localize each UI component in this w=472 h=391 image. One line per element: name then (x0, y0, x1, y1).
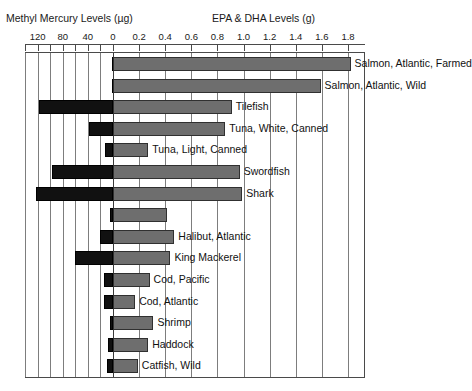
mercury-bar (104, 273, 113, 287)
bar-row-label: King Mackerel (174, 250, 241, 265)
epa-dha-bar (113, 79, 321, 93)
axis-tick (100, 44, 101, 51)
bar-row-label: Salmon, Atlantic, Wild (325, 78, 427, 93)
mercury-bar (36, 187, 113, 201)
mercury-bar (89, 122, 113, 136)
bar-row: Cod, Pacific (26, 269, 364, 291)
axis-tick (75, 44, 76, 51)
bar-row: Tuna, Light, Canned (26, 139, 364, 161)
epa-dha-tick-label: 0.2 (133, 31, 146, 42)
epa-dha-tick-label: 1.6 (315, 31, 328, 42)
axis-tick (38, 44, 39, 51)
epa-dha-bar (113, 100, 232, 114)
epa-dha-tick-label: 1.0 (237, 31, 250, 42)
axis-tick (139, 44, 140, 51)
epa-dha-bar (113, 359, 138, 373)
bar-row-label: Salmon, Atlantic, Farmed (355, 56, 472, 71)
bar-row-label: Catfish, Wild (142, 358, 201, 373)
bar-row: Tuna, White, Canned (26, 118, 364, 140)
epa-dha-tick-label: 0.8 (211, 31, 224, 42)
axis-tick (25, 44, 26, 51)
axis-tick (217, 44, 218, 51)
bar-row-label: Tuna, Light, Canned (152, 142, 247, 157)
bar-row-label: Tilefish (236, 99, 269, 114)
epa-dha-bar (113, 251, 170, 265)
bar-row: Swordfish (26, 161, 364, 183)
bar-row: Tilefish (26, 96, 364, 118)
epa-dha-bar (113, 273, 150, 287)
mercury-bar (105, 143, 113, 157)
epa-dha-bar (113, 57, 351, 71)
mercury-tick-label: 40 (83, 31, 94, 42)
axis-tick (165, 44, 166, 51)
mercury-bar (75, 251, 113, 265)
mercury-tick-label: 0 (110, 31, 115, 42)
epa-dha-bar (113, 208, 167, 222)
axis-tick (113, 44, 114, 51)
mercury-bar (39, 100, 113, 114)
epa-dha-bar (113, 338, 148, 352)
mercury-tick-label: 80 (57, 31, 68, 42)
bar-row (26, 204, 364, 226)
bar-row-label: Swordfish (244, 164, 290, 179)
axis-tick (50, 44, 51, 51)
epa-dha-tick-label: 1.4 (289, 31, 302, 42)
epa-dha-axis-title: EPA & DHA Levels (g) (212, 12, 315, 24)
axis-tick (348, 44, 349, 51)
bar-row: Halibut, Atlantic (26, 226, 364, 248)
epa-dha-bar (113, 122, 225, 136)
epa-dha-tick-label: 0.4 (159, 31, 172, 42)
epa-dha-bar (113, 165, 240, 179)
mercury-tick-label: 120 (30, 31, 46, 42)
mercury-bar (100, 230, 113, 244)
bar-row-label: Tuna, White, Canned (229, 121, 328, 136)
bar-row-label: Haddock (152, 337, 193, 352)
axis-tick (296, 44, 297, 51)
epa-dha-bar (113, 187, 242, 201)
bar-row: Catfish, Wild (26, 355, 364, 377)
bar-row-label: Cod, Atlantic (139, 294, 198, 309)
epa-dha-bar (113, 316, 153, 330)
bar-row-label: Shark (246, 186, 273, 201)
bar-row: Cod, Atlantic (26, 291, 364, 313)
axis-rule (25, 44, 365, 45)
axis-tick (322, 44, 323, 51)
epa-dha-tick-label: 1.8 (341, 31, 354, 42)
epa-dha-bar (113, 295, 135, 309)
bar-row-label: Cod, Pacific (154, 272, 210, 287)
bar-row: Shark (26, 183, 364, 205)
axis-tick (88, 44, 89, 51)
bar-row: King Mackerel (26, 247, 364, 269)
epa-dha-bar (113, 230, 174, 244)
epa-dha-tick-label: 1.2 (263, 31, 276, 42)
axis-tick (191, 44, 192, 51)
axis-tick (63, 44, 64, 51)
bar-row-label: Halibut, Atlantic (178, 229, 250, 244)
mercury-axis-title: Methyl Mercury Levels (µg) (6, 12, 133, 24)
bar-row: Salmon, Atlantic, Wild (26, 75, 364, 97)
mercury-bar (52, 165, 113, 179)
bar-row: Haddock (26, 334, 364, 356)
bar-row-label: Shrimp (157, 315, 190, 330)
plot-area: Salmon, Atlantic, FarmedSalmon, Atlantic… (25, 52, 365, 378)
axis-tick (244, 44, 245, 51)
mercury-bar (104, 295, 113, 309)
bar-row: Shrimp (26, 312, 364, 334)
bar-row: Salmon, Atlantic, Farmed (26, 53, 364, 75)
epa-dha-tick-label: 0.6 (185, 31, 198, 42)
axis-tick (270, 44, 271, 51)
epa-dha-bar (113, 143, 148, 157)
